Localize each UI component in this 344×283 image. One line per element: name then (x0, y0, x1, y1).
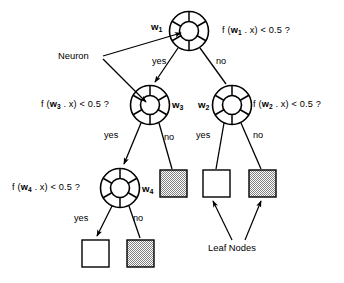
w2-sub: 2 (205, 104, 209, 111)
weight-label-w3: w3 (172, 100, 183, 110)
branch-label-right-yes: yes (196, 131, 210, 140)
neuron-glyph-w3 (131, 86, 170, 125)
cond-right-weight: w (262, 99, 269, 109)
edge-right-yes (216, 123, 224, 169)
leaf-node-shaded-left (160, 170, 187, 197)
decision-tree-diagram: f (w1 . x) < 0.5 ? w1 Neuron yes no f (w… (0, 0, 344, 283)
leaf-node-white-bottom (82, 240, 109, 267)
branch-label-leftleft-no: no (133, 214, 143, 223)
branch-label-root-yes: yes (152, 57, 166, 66)
cond-left-weight: w (50, 99, 57, 109)
cond-right-sub: 2 (269, 103, 273, 110)
cond-ll-weight: w (21, 182, 28, 192)
cond-right-prefix: f ( (253, 99, 262, 109)
cond-root-weight: w (231, 25, 238, 35)
edge-left-yes (124, 123, 141, 164)
edge-group-left (124, 123, 172, 169)
cond-right-middle: . x) < 0.5 ? (273, 99, 321, 109)
edge-leftleft-yes (97, 206, 112, 236)
leaf-leader-to-shaded (245, 201, 261, 240)
condition-label-right: f (w2 . x) < 0.5 ? (253, 100, 321, 109)
leaf-node-white-right (203, 170, 230, 197)
condition-label-root: f (w1 . x) < 0.5 ? (222, 26, 290, 35)
cond-left-prefix: f ( (41, 99, 50, 109)
cond-root-sub: 1 (238, 29, 242, 36)
weight-label-w1: w1 (151, 22, 162, 32)
weight-label-w2: w2 (198, 100, 209, 110)
branch-label-root-no: no (216, 57, 226, 66)
annotation-neuron: Neuron (58, 51, 89, 60)
edge-left-no (159, 123, 172, 169)
branch-label-right-no: no (253, 131, 263, 140)
w4-sub: 4 (149, 188, 153, 195)
cond-ll-prefix: f ( (12, 182, 21, 192)
neuron-leader-to-root (103, 33, 181, 56)
cond-left-middle: . x) < 0.5 ? (61, 99, 109, 109)
cond-ll-sub: 4 (28, 186, 32, 193)
branch-label-leftleft-yes: yes (74, 214, 88, 223)
leaf-node-shaded-bottom (127, 240, 154, 267)
leaf-leader-to-white (213, 201, 232, 240)
w1-sub: 1 (158, 26, 162, 33)
neuron-glyph-w1 (170, 12, 209, 51)
leaf-node-shaded-right (249, 170, 276, 197)
w3-sub: 3 (179, 104, 183, 111)
condition-label-leftleft: f (w4 . x) < 0.5 ? (12, 183, 80, 192)
condition-label-left: f (w3 . x) < 0.5 ? (41, 100, 109, 109)
branch-label-left-no: no (164, 133, 174, 142)
neuron-glyph-w4 (101, 169, 140, 208)
branch-label-left-yes: yes (104, 131, 118, 140)
weight-label-w4: w4 (142, 184, 153, 194)
neuron-leader-to-w3 (103, 59, 146, 102)
cond-left-sub: 3 (57, 103, 61, 110)
annotation-leaf-nodes: Leaf Nodes (208, 243, 256, 252)
cond-root-middle: . x) < 0.5 ? (242, 25, 290, 35)
leaf-nodes-leader-arrows (213, 201, 261, 240)
cond-root-prefix: f ( (222, 25, 231, 35)
cond-ll-middle: . x) < 0.5 ? (32, 182, 80, 192)
neuron-glyph-w2 (213, 86, 252, 125)
